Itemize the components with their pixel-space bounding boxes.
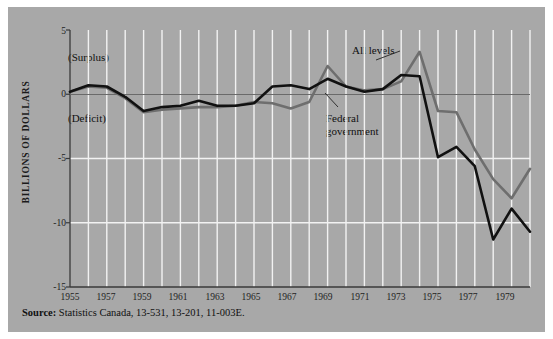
chart-figure: BILLIONS OF DOLLARS 5 0 -5 -10 -15 1955 … [8,7,545,332]
source-note: Source: Statistics Canada, 13-531, 13-20… [22,307,245,318]
leader-line-all-levels [376,51,400,60]
source-prefix: Source: [22,307,56,318]
series-line-federal-government [70,75,530,240]
source-text: Statistics Canada, 13-531, 13-201, 11-00… [59,307,245,318]
chart-plot-area [8,7,545,332]
series-line-all-levels [70,52,530,199]
horizontal-gridlines [70,159,530,223]
